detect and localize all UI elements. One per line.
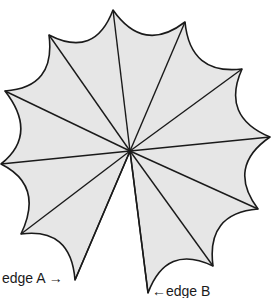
cone-net-diagram — [0, 0, 279, 298]
edge-a-label: edge A → — [2, 271, 63, 285]
net-outline — [1, 10, 270, 293]
edge-b-label: ←edge B — [152, 284, 210, 298]
